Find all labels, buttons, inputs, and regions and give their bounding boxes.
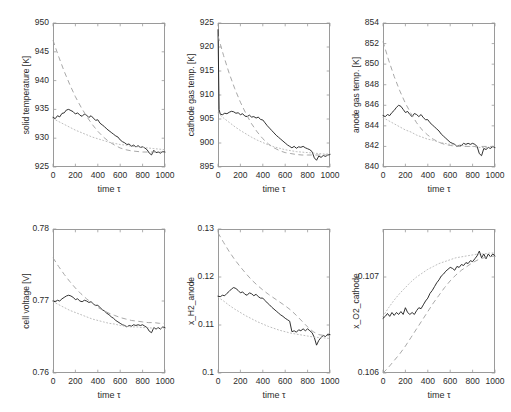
xtick-label: 1000 <box>313 170 347 180</box>
ytick-label: 0.1 <box>174 367 214 377</box>
plot-area-anode-gas-temp <box>383 23 495 167</box>
plot-lines-cell-voltage <box>53 229 165 373</box>
y-axis-label-cell-voltage: cell voltage [V] <box>21 273 31 328</box>
ytick-label: 0.106 <box>339 367 379 377</box>
xtick-label: 600 <box>433 376 467 386</box>
xtick-label: 800 <box>456 170 490 180</box>
panel-solid-temperature: 92593093594094595002004006008001000solid… <box>0 0 511 412</box>
xtick-label: 1000 <box>148 170 182 180</box>
panel-x-o2-cathode: 0.1060.10702004006008001000x_O2_cathodet… <box>0 0 511 412</box>
series-measured <box>218 30 330 161</box>
xtick-label: 200 <box>58 376 92 386</box>
xtick-label: 0 <box>36 170 70 180</box>
x-axis-label-x-o2-cathode: time τ <box>383 390 495 400</box>
xtick-label: 200 <box>58 170 92 180</box>
panel-cell-voltage: 0.760.770.7802004006008001000cell voltag… <box>0 0 511 412</box>
ytick-label: 840 <box>339 161 379 171</box>
ytick-label: 850 <box>339 58 379 68</box>
x-axis-label-cathode-gas-temp: time τ <box>218 184 330 194</box>
ytick-label: 0.13 <box>174 223 214 233</box>
series-model-dashed <box>383 256 495 373</box>
panel-anode-gas-temp: 8408428448468488508528540200400600800100… <box>0 0 511 412</box>
xtick-label: 400 <box>246 170 280 180</box>
xtick-label: 0 <box>201 170 235 180</box>
ytick-label: 925 <box>9 161 49 171</box>
series-model-dotted <box>218 113 330 154</box>
xtick-label: 800 <box>291 376 325 386</box>
xtick-label: 0 <box>36 376 70 386</box>
ytick-label: 0.11 <box>174 319 214 329</box>
plot-area-solid-temperature <box>53 23 165 167</box>
xtick-label: 800 <box>456 376 490 386</box>
ytick-label: 846 <box>339 99 379 109</box>
xtick-label: 1000 <box>478 376 511 386</box>
ytick-label: 905 <box>174 113 214 123</box>
ytick-label: 0.12 <box>174 271 214 281</box>
xtick-label: 600 <box>268 376 302 386</box>
series-model-dotted <box>53 302 165 329</box>
ytick-label: 0.76 <box>9 367 49 377</box>
plot-area-x-o2-cathode <box>383 229 495 373</box>
xtick-label: 200 <box>388 376 422 386</box>
plot-area-cathode-gas-temp <box>218 23 330 167</box>
ytick-label: 895 <box>174 161 214 171</box>
plot-area-x-h2-anode <box>218 229 330 373</box>
ytick-label: 950 <box>9 17 49 27</box>
series-measured <box>383 105 495 155</box>
ytick-label: 930 <box>9 132 49 142</box>
ytick-label: 900 <box>174 137 214 147</box>
figure-canvas: 92593093594094595002004006008001000solid… <box>0 0 511 412</box>
series-model-dashed <box>218 36 330 155</box>
panel-cathode-gas-temp: 89590090591091592092502004006008001000ca… <box>0 0 511 412</box>
xtick-label: 600 <box>268 170 302 180</box>
series-measured <box>383 251 495 318</box>
x-axis-label-solid-temperature: time τ <box>53 184 165 194</box>
y-axis-label-x-o2-cathode: x_O2_cathode <box>351 273 361 328</box>
plot-lines-x-o2-cathode <box>383 229 495 373</box>
xtick-label: 0 <box>366 376 400 386</box>
xtick-label: 400 <box>81 376 115 386</box>
xtick-label: 1000 <box>313 376 347 386</box>
xtick-label: 1000 <box>148 376 182 386</box>
xtick-label: 600 <box>433 170 467 180</box>
x-axis-label-anode-gas-temp: time τ <box>383 184 495 194</box>
xtick-label: 400 <box>246 376 280 386</box>
xtick-label: 800 <box>126 376 160 386</box>
ytick-label: 842 <box>339 140 379 150</box>
ytick-label: 854 <box>339 17 379 27</box>
y-axis-label-cathode-gas-temp: cathode gas temp. [K] <box>186 54 196 137</box>
y-axis-label-solid-temperature: solid temperature [K] <box>21 56 31 134</box>
plot-lines-cathode-gas-temp <box>218 23 330 167</box>
ytick-label: 945 <box>9 46 49 56</box>
ytick-label: 0.78 <box>9 223 49 233</box>
series-measured <box>218 288 330 346</box>
plot-lines-solid-temperature <box>53 23 165 167</box>
ytick-label: 915 <box>174 65 214 75</box>
y-axis-label-anode-gas-temp: anode gas temp. [K] <box>351 57 361 133</box>
y-axis-label-x-h2-anode: x_H2_anode <box>186 277 196 325</box>
ytick-label: 940 <box>9 75 49 85</box>
ytick-label: 935 <box>9 103 49 113</box>
xtick-label: 400 <box>411 170 445 180</box>
series-model-dotted <box>53 119 165 150</box>
series-model-dotted <box>383 253 495 316</box>
xtick-label: 0 <box>366 170 400 180</box>
xtick-label: 200 <box>388 170 422 180</box>
series-model-dashed <box>53 258 165 324</box>
ytick-label: 925 <box>174 17 214 27</box>
series-model-dotted <box>218 297 330 338</box>
ytick-label: 0.107 <box>339 271 379 281</box>
xtick-label: 200 <box>223 376 257 386</box>
xtick-label: 1000 <box>478 170 511 180</box>
ytick-label: 0.77 <box>9 295 49 305</box>
series-measured <box>53 295 165 332</box>
series-model-dashed <box>383 42 495 147</box>
ytick-label: 848 <box>339 79 379 89</box>
panel-x-h2-anode: 0.10.110.120.1302004006008001000x_H2_ano… <box>0 0 511 412</box>
xtick-label: 400 <box>411 376 445 386</box>
xtick-label: 600 <box>103 170 137 180</box>
xtick-label: 800 <box>126 170 160 180</box>
x-axis-label-cell-voltage: time τ <box>53 390 165 400</box>
ytick-label: 910 <box>174 89 214 99</box>
series-measured <box>53 109 165 154</box>
